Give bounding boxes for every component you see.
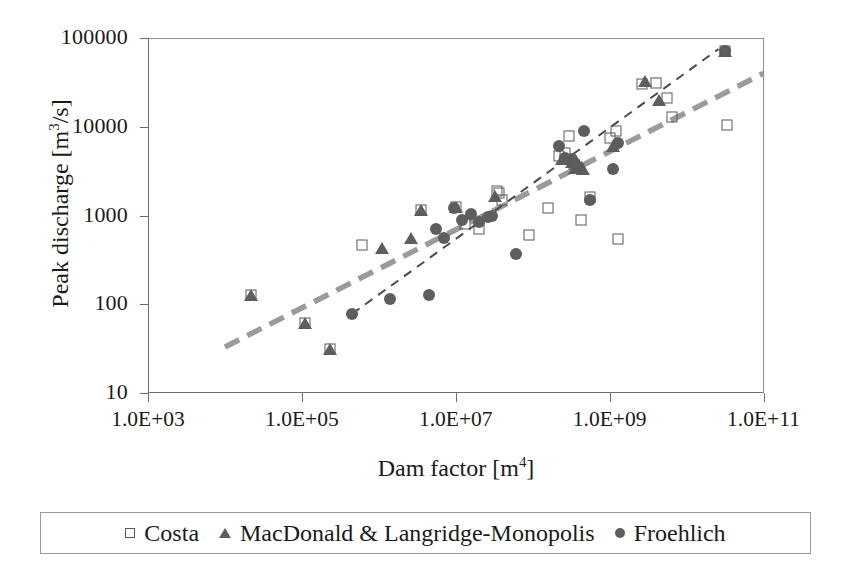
circle-filled-icon	[615, 528, 625, 538]
costa-point	[584, 192, 595, 203]
costa-point	[524, 230, 535, 241]
x-tick-mark	[148, 393, 149, 402]
y-tick-label: 10	[8, 381, 128, 403]
x-tick-label: 1.0E+11	[694, 408, 834, 430]
costa-point	[575, 214, 586, 225]
costa-point	[324, 344, 335, 355]
x-tick-label: 1.0E+05	[232, 408, 372, 430]
costa-point	[497, 194, 508, 205]
x-tick-mark	[302, 393, 303, 402]
froehlich-point	[384, 293, 396, 305]
froehlich-point	[486, 210, 498, 222]
costa-point	[300, 317, 311, 328]
macdonald-point	[404, 232, 418, 244]
costa-point	[356, 239, 367, 250]
chart-figure: Peak discharge [m3/s] 101001000100001000…	[0, 0, 851, 573]
macdonald-point	[375, 242, 389, 254]
legend-label: Costa	[144, 520, 199, 547]
plot-right-border	[763, 38, 764, 393]
costa-point	[559, 148, 570, 159]
costa-point	[613, 233, 624, 244]
froehlich-point	[346, 308, 358, 320]
legend-item[interactable]: Costa	[125, 520, 199, 547]
chart-legend: CostaMacDonald & Langridge-MonopolisFroe…	[40, 512, 811, 554]
costa-point	[661, 93, 672, 104]
y-tick-label: 100000	[8, 26, 128, 48]
triangle-filled-icon	[219, 528, 231, 538]
froehlich-point	[510, 248, 522, 260]
y-tick-label: 10000	[8, 115, 128, 137]
plot-top-border	[148, 38, 764, 39]
froehlich-point	[578, 125, 590, 137]
costa-point	[246, 289, 257, 300]
x-axis-title: Dam factor [m4]	[148, 455, 764, 482]
legend-label: MacDonald & Langridge-Monopolis	[240, 520, 595, 547]
costa-point	[473, 224, 484, 235]
x-tick-label: 1.0E+09	[540, 408, 680, 430]
y-tick-label: 1000	[8, 204, 128, 226]
costa-point	[450, 201, 461, 212]
legend-item[interactable]: Froehlich	[615, 520, 726, 547]
y-tick-label: 100	[8, 292, 128, 314]
costa-point	[636, 79, 647, 90]
costa-point	[667, 111, 678, 122]
costa-point	[564, 131, 575, 142]
costa-point	[543, 203, 554, 214]
legend-item[interactable]: MacDonald & Langridge-Monopolis	[219, 520, 595, 547]
x-tick-mark	[456, 393, 457, 402]
x-tick-label: 1.0E+03	[78, 408, 218, 430]
costa-point	[720, 45, 731, 56]
x-tick-mark	[764, 393, 765, 402]
square-outline-icon	[125, 528, 135, 538]
costa-point	[722, 119, 733, 130]
costa-point	[415, 205, 426, 216]
x-tick-mark	[610, 393, 611, 402]
froehlich-point	[607, 163, 619, 175]
froehlich-point	[438, 232, 450, 244]
costa-point	[459, 219, 470, 230]
costa-point	[572, 162, 583, 173]
froehlich-point	[423, 289, 435, 301]
costa-point	[650, 78, 661, 89]
costa-point	[610, 125, 621, 136]
x-tick-label: 1.0E+07	[386, 408, 526, 430]
legend-label: Froehlich	[634, 520, 726, 547]
